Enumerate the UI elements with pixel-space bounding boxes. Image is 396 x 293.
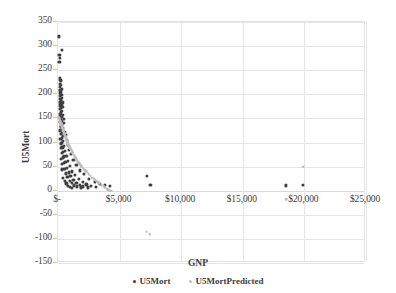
data-point-u5mort (67, 171, 70, 174)
data-point-u5mort (87, 177, 90, 180)
legend-marker-icon (133, 280, 136, 283)
gridline-horizontal (58, 94, 364, 95)
gridline-vertical (120, 22, 121, 261)
gridline-vertical (181, 22, 182, 261)
data-point-u5mort (149, 183, 152, 186)
y-tick-mark (53, 238, 57, 239)
data-point-u5mort (57, 35, 60, 38)
data-point-u5mort (74, 174, 77, 177)
gridline-vertical (304, 22, 305, 261)
data-point-u5mort (61, 168, 64, 171)
y-tick-label: 350 (18, 16, 52, 26)
y-tick-label: 300 (18, 40, 52, 50)
y-tick-label: -50 (18, 209, 52, 219)
data-point-u5mort (81, 180, 84, 183)
x-tick-label: $20,000 (268, 195, 338, 205)
legend-marker-icon (189, 280, 192, 283)
data-point-u5mort (95, 185, 98, 188)
data-point-u5mortpredicted (148, 233, 151, 236)
gridline-horizontal (58, 118, 364, 119)
data-point-u5mort (79, 169, 82, 172)
y-tick-mark (53, 21, 57, 22)
y-axis-title: U5Mort (21, 130, 31, 163)
y-tick-mark (53, 214, 57, 215)
data-point-u5mort (82, 173, 85, 176)
y-tick-mark (53, 117, 57, 118)
data-point-u5mortpredicted (110, 189, 113, 192)
legend-label: U5Mort (140, 276, 171, 286)
plot-area (57, 21, 365, 262)
gridline-vertical (366, 22, 367, 261)
gridline-horizontal (58, 191, 364, 192)
y-tick-label: 150 (18, 112, 52, 122)
gridline-vertical (243, 22, 244, 261)
x-tick-label: $- (22, 195, 92, 205)
gridline-horizontal (58, 167, 364, 168)
data-point-u5mort (108, 184, 111, 187)
data-point-u5mort (58, 56, 61, 59)
y-tick-mark (53, 45, 57, 46)
gridline-horizontal (58, 215, 364, 216)
x-tick-label: $10,000 (145, 195, 215, 205)
data-point-u5mort (71, 170, 74, 173)
data-point-u5mort (69, 175, 72, 178)
data-point-u5mort (60, 163, 63, 166)
data-point-u5mort (64, 172, 67, 175)
y-tick-mark (53, 93, 57, 94)
y-tick-label: 250 (18, 64, 52, 74)
x-axis-title: GNP (0, 258, 396, 268)
data-point-u5mort (79, 186, 82, 189)
gridline-horizontal (58, 143, 364, 144)
data-point-u5mort (90, 184, 93, 187)
data-point-u5mort (71, 186, 74, 189)
x-tick-label: $5,000 (84, 195, 154, 205)
y-tick-mark (53, 142, 57, 143)
y-tick-label: 200 (18, 88, 52, 98)
y-tick-mark (53, 166, 57, 167)
data-point-u5mort (58, 60, 61, 63)
data-point-u5mort (284, 184, 287, 187)
data-point-u5mort (86, 186, 89, 189)
chart-legend: U5MortU5MortPredicted (0, 276, 396, 286)
legend-item-u5mort[interactable]: U5Mort (133, 276, 171, 286)
gridline-horizontal (58, 70, 364, 71)
gridline-horizontal (58, 239, 364, 240)
y-tick-mark (53, 190, 57, 191)
gridline-horizontal (58, 46, 364, 47)
chart-container: -150-100-50050100150200250300350 $-$5,00… (0, 0, 396, 293)
x-tick-label: $15,000 (207, 195, 277, 205)
y-tick-label: 0 (18, 185, 52, 195)
gridline-horizontal (58, 22, 364, 23)
data-point-u5mortpredicted (302, 165, 305, 168)
data-point-u5mort (77, 178, 80, 181)
legend-item-u5mortpredicted[interactable]: U5MortPredicted (189, 276, 264, 286)
data-point-u5mort (60, 48, 63, 51)
data-point-u5mort (145, 175, 148, 178)
x-tick-label: $25,000 (330, 195, 396, 205)
data-point-u5mort (59, 157, 62, 160)
y-tick-mark (53, 69, 57, 70)
legend-label: U5MortPredicted (196, 276, 264, 286)
y-tick-label: -100 (18, 233, 52, 243)
